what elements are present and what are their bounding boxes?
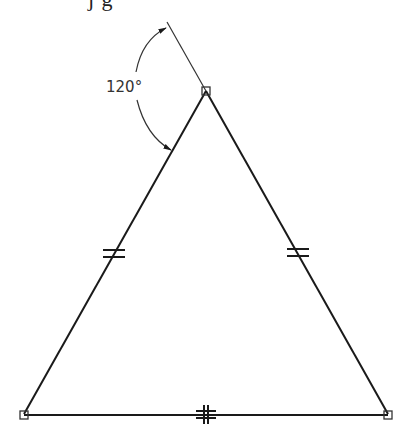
angle-label: 120° — [106, 78, 142, 96]
right-side — [206, 91, 388, 414]
left-side — [24, 91, 206, 414]
triangle-diagram: 120° — [0, 0, 420, 428]
arc-lower — [137, 100, 171, 150]
extension-line — [167, 22, 206, 91]
cut-off-caption: j g — [88, 0, 114, 12]
vertex-markers — [20, 87, 392, 419]
triangle — [24, 91, 388, 415]
arc-upper — [136, 28, 166, 72]
diagram-canvas: j g 120° — [0, 0, 420, 428]
